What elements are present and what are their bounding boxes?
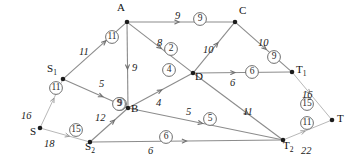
edge-capacity-a-b: 9 [132,63,137,74]
node-dot-c[interactable] [233,20,238,25]
edge-capacity-b-t2: 5 [186,107,191,118]
edge-capacity-s2-t2: 6 [148,146,153,157]
node-label-t: T [337,113,344,124]
edge-capacity-a-c: 9 [175,11,180,22]
node-dot-t[interactable] [330,118,335,123]
node-label-d: D [195,71,203,82]
node-label-t1: T1 [296,64,306,78]
edge-capacity-s1-a: 11 [79,47,89,58]
edge-capacity-d-t1: 6 [230,78,235,89]
flow-value-s-s2: 15 [66,125,86,135]
flow-value-s-s1: 11 [46,83,66,93]
node-label-s1: S1 [47,63,57,77]
flow-value-a-c: 9 [190,14,210,24]
edge-capacity-d-t2: 11 [243,107,253,118]
edge-capacity-s1-b: 5 [99,79,104,90]
node-dot-a[interactable] [125,20,130,25]
node-label-s: S [30,126,36,137]
edge-capacity-d-c: 10 [203,45,214,56]
edge-d-t2 [195,74,281,138]
node-label-c: C [239,5,246,16]
edge-capacity-c-t1: 10 [258,38,269,49]
edge-capacity-t2-t: 22 [301,146,312,157]
node-label-t2: T2 [283,140,293,154]
flow-value-d-t1: 6 [242,67,262,77]
flow-value-t2-t: 11 [297,118,317,128]
flow-value-a-d: 2 [161,44,181,54]
flow-value-s2-t2: 6 [156,132,176,142]
edge-capacity-s2-b: 12 [95,113,106,124]
flow-value-b-t2: 5 [200,114,220,124]
network-flow-diagram: 1611181511115912966998294455106611109161… [0,0,358,164]
flow-value-t1-t: 15 [297,99,317,109]
edge-capacity-s-s1: 16 [21,111,32,122]
flow-value-s1-a: 11 [102,32,122,42]
flow-value-b-d: 4 [159,65,179,75]
flow-value-c-t1: 9 [264,52,284,62]
edge-capacity-b-d: 4 [156,98,161,109]
node-label-a: A [117,2,125,13]
node-label-b: B [131,103,138,114]
node-label-s2: S2 [85,141,95,155]
flow-value-s2-b: 9 [109,99,129,109]
node-dot-t1[interactable] [290,70,295,75]
node-dot-s1[interactable] [61,77,66,82]
node-dot-s[interactable] [38,126,43,131]
edge-d-c [194,24,233,72]
edge-a-b [127,24,128,106]
edge-capacity-s-s2: 18 [44,139,55,150]
